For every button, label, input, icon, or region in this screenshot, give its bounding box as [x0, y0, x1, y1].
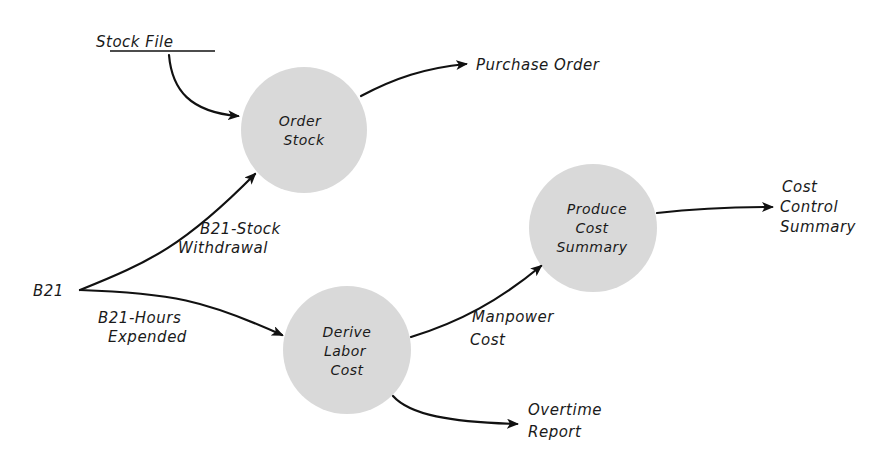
flow-label-line: B21-Stock [200, 220, 282, 238]
flow-purchase-order [361, 64, 466, 96]
data-store-stock-file: Stock File [96, 33, 215, 51]
flow-overtime-report [393, 396, 517, 424]
process-label-line: Labor [324, 343, 367, 359]
process-label-line: Produce [567, 201, 627, 217]
flow-label-line: Purchase Order [476, 56, 600, 74]
flow-label-line: Control [780, 198, 838, 216]
flow-label-line: Overtime [528, 401, 602, 419]
flow-label-line: Withdrawal [178, 239, 268, 257]
data-store-label: Stock File [96, 33, 173, 51]
flow-manpower-cost [411, 266, 541, 337]
flow-label-line: Expended [108, 328, 187, 346]
flow-label-line: B21-Hours [98, 309, 181, 327]
flow-stock-file-to-order [169, 55, 238, 116]
flow-cost-control-summary [657, 207, 772, 213]
flow-label-line: Cost [470, 331, 506, 349]
flow-label-line: Report [528, 423, 582, 441]
flow-label-line: Summary [780, 218, 857, 236]
process-label-line: Cost [330, 362, 363, 378]
data-flow-diagram: Order Stock Derive Labor Cost Produce Co… [0, 0, 896, 461]
process-bubble [241, 67, 367, 193]
process-order-stock: Order Stock [241, 67, 367, 193]
flow-label-line: Manpower [472, 308, 554, 326]
process-produce-cost-summary: Produce Cost Summary [529, 164, 657, 292]
process-label-line: Summary [556, 239, 627, 255]
process-label-line: Order [279, 113, 322, 129]
process-label-line: Cost [575, 220, 608, 236]
external-entity-b21: B21 [33, 282, 64, 300]
process-derive-labor-cost: Derive Labor Cost [283, 286, 411, 414]
process-label-line: Stock [283, 132, 325, 148]
process-label-line: Derive [323, 324, 372, 340]
flow-label-line: Cost [782, 178, 818, 196]
